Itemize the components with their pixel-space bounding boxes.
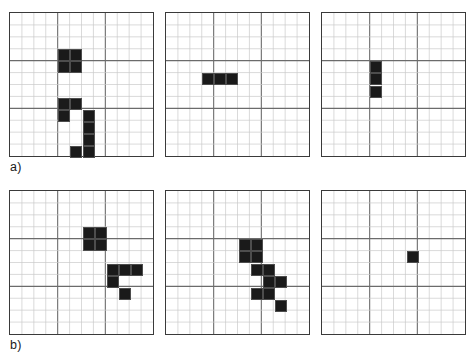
filled-cell[interactable] [263,264,275,276]
filled-cell[interactable] [119,264,131,276]
filled-cell[interactable] [370,73,382,85]
filled-cell[interactable] [70,61,82,73]
cells-layer-b-1 [10,191,153,334]
filled-cell[interactable] [370,61,382,73]
filled-cell[interactable] [251,288,263,300]
filled-cell[interactable] [239,239,251,251]
panel-slot-a-1 [0,10,156,160]
filled-cell[interactable] [407,251,419,263]
row-label-b: b) [10,338,22,352]
filled-cell[interactable] [202,73,214,85]
cells-layer-a-1 [10,13,153,156]
panel-a-2[interactable] [165,12,310,157]
filled-cell[interactable] [58,110,70,122]
filled-cell[interactable] [58,61,70,73]
filled-cell[interactable] [58,49,70,61]
panel-b-3[interactable] [321,190,466,335]
panel-slot-a-2 [156,10,312,160]
filled-cell[interactable] [83,134,95,146]
filled-cell[interactable] [251,239,263,251]
panel-a-3[interactable] [321,12,466,157]
filled-cell[interactable] [263,288,275,300]
filled-cell[interactable] [107,264,119,276]
filled-cell[interactable] [95,239,107,251]
filled-cell[interactable] [70,98,82,110]
filled-cell[interactable] [70,146,82,158]
cells-layer-a-2 [166,13,309,156]
panel-slot-b-2 [156,188,312,338]
panel-slot-a-3 [312,10,468,160]
filled-cell[interactable] [251,264,263,276]
filled-cell[interactable] [275,300,287,312]
filled-cell[interactable] [95,227,107,239]
panel-a-1[interactable] [9,12,154,157]
filled-cell[interactable] [226,73,238,85]
filled-cell[interactable] [370,86,382,98]
filled-cell[interactable] [131,264,143,276]
panel-row-a [0,10,468,160]
filled-cell[interactable] [70,49,82,61]
cells-layer-b-2 [166,191,309,334]
panel-slot-b-3 [312,188,468,338]
panel-slot-b-1 [0,188,156,338]
filled-cell[interactable] [83,239,95,251]
filled-cell[interactable] [107,276,119,288]
filled-cell[interactable] [119,288,131,300]
filled-cell[interactable] [83,122,95,134]
cells-layer-a-3 [322,13,465,156]
figure-container: a) b) [0,0,468,356]
filled-cell[interactable] [83,146,95,158]
filled-cell[interactable] [263,276,275,288]
filled-cell[interactable] [83,227,95,239]
filled-cell[interactable] [239,251,251,263]
panel-b-1[interactable] [9,190,154,335]
cells-layer-b-3 [322,191,465,334]
filled-cell[interactable] [214,73,226,85]
filled-cell[interactable] [275,276,287,288]
filled-cell[interactable] [58,98,70,110]
panel-row-b [0,188,468,338]
filled-cell[interactable] [251,251,263,263]
panel-b-2[interactable] [165,190,310,335]
filled-cell[interactable] [83,110,95,122]
row-label-a: a) [10,160,22,174]
